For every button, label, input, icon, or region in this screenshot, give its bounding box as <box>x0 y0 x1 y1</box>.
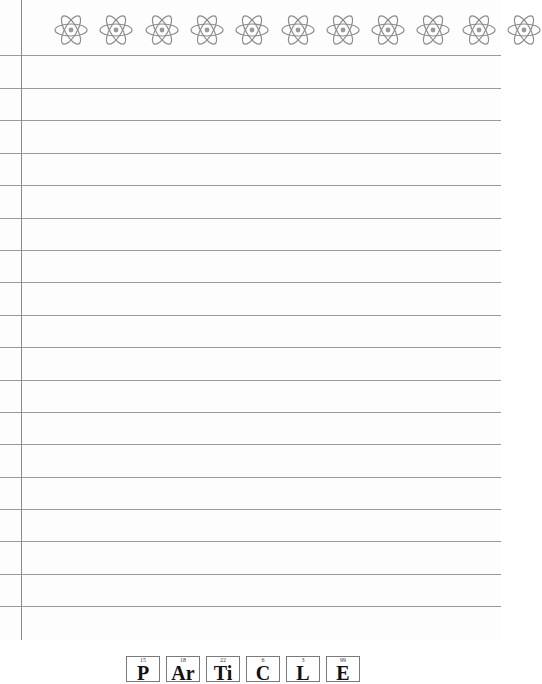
atom-icon <box>280 12 316 48</box>
atom-icon <box>370 12 406 48</box>
element-tile: 18Ar <box>166 656 200 682</box>
element-tile: 15P <box>126 656 160 682</box>
element-symbol: C <box>247 662 279 684</box>
element-tile: 22Ti <box>206 656 240 682</box>
ruled-line <box>0 120 501 121</box>
ruled-line <box>0 444 501 445</box>
ruled-line <box>0 380 501 381</box>
atom-icon <box>461 12 497 48</box>
ruled-line <box>0 282 501 283</box>
atom-icon <box>234 12 270 48</box>
atom-icon <box>144 12 180 48</box>
notebook-paper <box>0 0 501 640</box>
element-tile: 99E <box>326 656 360 682</box>
ruled-line <box>0 218 501 219</box>
ruled-line <box>0 250 501 251</box>
ruled-line <box>0 185 501 186</box>
ruled-line <box>0 88 501 89</box>
element-tile: 6C <box>246 656 280 682</box>
ruled-line <box>0 509 501 510</box>
ruled-line <box>0 541 501 542</box>
ruled-line <box>0 55 501 56</box>
ruled-line <box>0 606 501 607</box>
element-symbol: Ar <box>167 662 199 684</box>
element-symbol: P <box>127 662 159 684</box>
atom-icon <box>53 12 89 48</box>
atom-icon <box>189 12 225 48</box>
ruled-line <box>0 477 501 478</box>
margin-line <box>21 0 22 640</box>
atom-icon <box>98 12 134 48</box>
ruled-line <box>0 412 501 413</box>
ruled-line <box>0 153 501 154</box>
element-symbol: Ti <box>207 662 239 684</box>
ruled-line <box>0 315 501 316</box>
atom-icon <box>506 12 542 48</box>
periodic-title: 15P 18Ar 22Ti 6C 3L 99E <box>126 656 360 680</box>
element-symbol: L <box>287 662 319 684</box>
ruled-line <box>0 574 501 575</box>
ruled-line <box>0 347 501 348</box>
element-tile: 3L <box>286 656 320 682</box>
atom-icon <box>415 12 451 48</box>
atom-icon <box>325 12 361 48</box>
element-symbol: E <box>327 662 359 684</box>
